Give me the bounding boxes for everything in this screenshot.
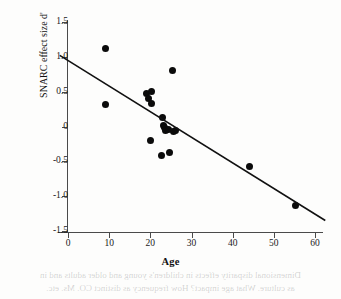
data-point [148,100,155,107]
data-point [102,101,109,108]
x-tick-label-1: 10 [104,239,114,249]
page-bleed-line-1: Dimensional disparity effects in childre… [0,270,341,280]
x-axis-line [58,232,323,233]
data-point [172,127,179,134]
data-point [292,202,299,209]
y-axis-title: SNARC effect size d' [39,0,49,130]
data-point [158,152,165,159]
x-tick-label-0: 0 [66,239,71,249]
y-tick-label-1: 1.0 [56,52,68,62]
data-point [246,163,253,170]
data-point [147,137,154,144]
y-tick-label-5: -1.0 [53,191,68,201]
x-tick-label-2: 20 [146,239,156,249]
x-tick-label-4: 40 [228,239,238,249]
y-tick-label-6: -1.5 [53,226,68,236]
data-point [159,114,166,121]
scatter-plot-figure: Dimensional disparity effects in childre… [0,0,341,299]
y-tick-label-4: -0.5 [53,156,68,166]
x-axis-title: Age [0,256,341,267]
plot-area [68,22,315,231]
y-tick-label-0: 1.5 [56,17,68,27]
data-point [102,45,109,52]
data-point [148,88,155,95]
data-point [166,149,173,156]
page-bleed-line-2: as culture. What age impact? How frequen… [0,283,341,293]
x-tick-label-6: 60 [310,239,320,249]
x-tick-label-5: 50 [269,239,279,249]
x-tick-label-3: 30 [187,239,197,249]
y-tick-label-2: 0.5 [56,87,68,97]
data-point [169,67,176,74]
